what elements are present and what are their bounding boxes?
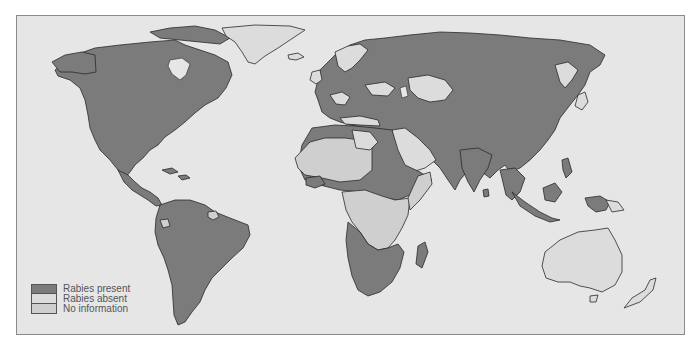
region-central-america [118,170,162,206]
region-australia [542,228,622,292]
region-borneo [543,183,562,202]
legend-swatch-no-information [31,304,57,314]
region-caribbean [162,168,190,180]
legend-swatch-present [31,284,57,294]
legend-item-no-information: No information [31,304,130,314]
region-new-zealand [624,278,656,308]
map-legend: Rabies present Rabies absent No informat… [31,284,130,314]
region-alaska [52,52,96,74]
region-philippines [562,158,572,178]
region-sri-lanka [483,189,489,197]
region-new-guinea [585,196,610,212]
region-tasmania [590,295,598,302]
region-iceland [288,53,304,60]
legend-label: No information [63,304,128,314]
region-madagascar [416,242,428,268]
region-southeast-asia [500,168,525,200]
region-png-east [606,200,624,212]
legend-swatch-absent [31,294,57,304]
region-south-america [155,200,250,325]
